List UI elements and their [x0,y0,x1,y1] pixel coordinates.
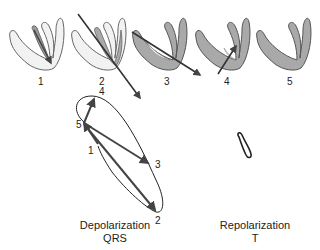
depolarization-wave: QRS [60,232,170,245]
repolarization-wave: T [200,232,310,245]
heart-stage-3 [132,18,200,75]
heart-stage-4 [196,18,250,74]
diagram-canvas [0,0,320,250]
t-vector-loop [238,133,251,158]
loop-point-5-label: 5 [76,120,82,130]
heart-stage-4-label: 4 [224,77,230,87]
repolarization-title: Repolarization [200,219,310,232]
heart-stage-5 [257,18,311,70]
heart-stage-2 [72,14,140,98]
loop-point-1-label: 1 [88,146,94,156]
heart-stage-5-label: 5 [287,77,293,87]
loop-point-4-label: 4 [99,87,105,97]
depolarization-caption: Depolarization QRS [60,219,170,245]
heart-stage-1 [10,18,64,70]
loop-point-3-label: 3 [155,160,161,170]
heart-stage-1-label: 1 [38,77,44,87]
heart-stage-3-label: 3 [164,77,170,87]
repolarization-caption: Repolarization T [200,219,310,245]
depolarization-title: Depolarization [60,219,170,232]
